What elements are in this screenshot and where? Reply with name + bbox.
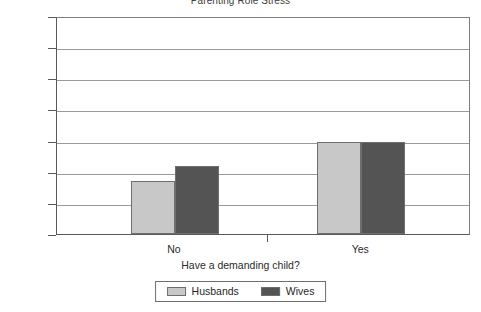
y-tick-mark [48, 48, 56, 49]
gridline [57, 111, 469, 112]
legend-entry-wives: Wives [261, 285, 315, 297]
y-tick-mark [48, 235, 56, 236]
x-axis-title: Have a demanding child? [0, 259, 481, 271]
bar-wives-yes [361, 142, 405, 234]
x-tick-label-yes: Yes [352, 243, 369, 255]
y-tick-mark [48, 110, 56, 111]
legend-label: Wives [286, 285, 315, 297]
legend-entry-husbands: Husbands [167, 285, 239, 297]
x-tick-label-no: No [167, 243, 180, 255]
gridline [57, 174, 469, 175]
y-tick-mark [48, 204, 56, 205]
bar-husbands-yes [317, 142, 361, 234]
gridline [57, 80, 469, 81]
gridline [57, 205, 469, 206]
x-tick-mark [267, 235, 268, 242]
chart-legend: HusbandsWives [155, 281, 327, 302]
y-tick-mark [48, 79, 56, 80]
gridline [57, 49, 469, 50]
gridline [57, 143, 469, 144]
y-tick-mark [48, 17, 56, 18]
bar-husbands-no [131, 181, 175, 234]
legend-label: Husbands [192, 285, 239, 297]
bar-chart: Parenting Role Stress 688810812814816818… [0, 0, 481, 312]
legend-swatch-wives [261, 287, 280, 296]
plot-area [56, 17, 470, 235]
y-tick-mark [48, 142, 56, 143]
chart-title: Parenting Role Stress [0, 0, 481, 6]
y-tick-mark [48, 173, 56, 174]
legend-swatch-husbands [167, 287, 186, 296]
bar-wives-no [175, 166, 219, 235]
